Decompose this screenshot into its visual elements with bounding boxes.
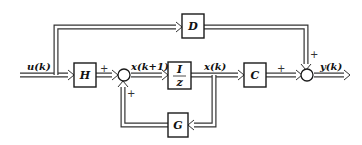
block-d: D — [182, 14, 204, 38]
block-c: C — [244, 63, 266, 87]
arrow-into-h-icon — [68, 70, 74, 80]
svg-text:z: z — [175, 76, 183, 89]
label-x-next: x(k+1) — [130, 61, 169, 72]
svg-text:H: H — [79, 69, 91, 82]
summing-junction-1 — [118, 69, 130, 81]
svg-text:D: D — [187, 20, 198, 33]
sign-sum1-h: + — [100, 63, 108, 74]
arrow-from-g-into-sum1-icon — [118, 81, 128, 87]
svg-text:G: G — [173, 119, 182, 132]
svg-text:I: I — [176, 63, 183, 76]
summing-junction-2 — [301, 69, 313, 81]
arrow-into-sum1-icon — [112, 70, 118, 80]
label-u: u(k) — [27, 61, 51, 72]
block-delay: I z — [168, 62, 191, 89]
arrow-into-c-icon — [238, 70, 244, 80]
label-y: y(k) — [319, 61, 342, 72]
sign-sum2-d: + — [310, 49, 318, 60]
arrow-output-icon — [344, 70, 350, 80]
label-x: x(k) — [203, 61, 227, 72]
arrow-into-d-icon — [176, 22, 182, 32]
svg-text:C: C — [251, 69, 260, 82]
block-h: H — [74, 63, 96, 87]
block-g: G — [168, 113, 188, 137]
sign-sum2-c: + — [277, 63, 285, 74]
block-diagram: H I z C D G u(k) x(k+1) x(k) y(k) + + + … — [0, 0, 362, 145]
arrow-into-g-icon — [188, 120, 194, 130]
sign-sum1-g: + — [127, 88, 135, 99]
